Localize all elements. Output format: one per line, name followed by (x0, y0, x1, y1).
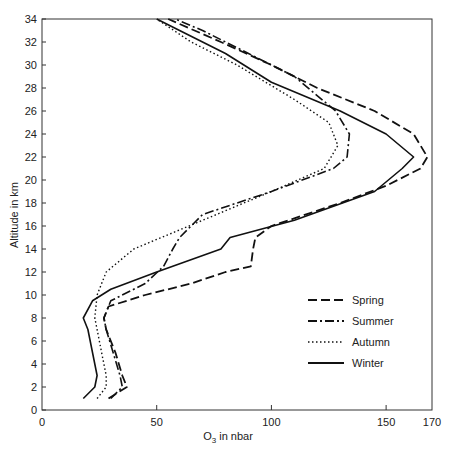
x-tick-label: 100 (262, 416, 280, 428)
x-axis-label: O3 in nbar (203, 430, 253, 445)
chart-svg: 0246810121416182022242628303234050100150… (0, 0, 449, 449)
y-tick-label: 4 (31, 358, 37, 370)
y-tick-label: 0 (31, 404, 37, 416)
legend-label-summer: Summer (352, 315, 394, 327)
y-tick-label: 14 (25, 243, 37, 255)
x-tick-label: 50 (151, 416, 163, 428)
y-tick-label: 30 (25, 59, 37, 71)
y-tick-label: 2 (31, 381, 37, 393)
y-tick-label: 18 (25, 197, 37, 209)
y-tick-label: 16 (25, 220, 37, 232)
series-line-autumn (95, 19, 338, 399)
y-tick-label: 20 (25, 174, 37, 186)
y-axis-label: Altitude in km (8, 182, 20, 248)
y-tick-label: 8 (31, 312, 37, 324)
y-tick-label: 34 (25, 13, 37, 25)
y-tick-label: 12 (25, 266, 37, 278)
legend-label-autumn: Autumn (352, 336, 390, 348)
legend-label-spring: Spring (352, 294, 384, 306)
ozone-altitude-chart: 0246810121416182022242628303234050100150… (0, 0, 449, 449)
y-tick-label: 26 (25, 105, 37, 117)
legend-label-winter: Winter (352, 357, 384, 369)
y-tick-label: 28 (25, 82, 37, 94)
y-tick-label: 22 (25, 151, 37, 163)
x-tick-label: 150 (377, 416, 395, 428)
y-tick-label: 6 (31, 335, 37, 347)
y-tick-label: 10 (25, 289, 37, 301)
plot-frame (42, 19, 432, 410)
x-tick-label: 0 (39, 416, 45, 428)
y-tick-label: 32 (25, 36, 37, 48)
legend: SpringSummerAutumnWinter (308, 294, 394, 369)
x-tick-label: 170 (423, 416, 441, 428)
y-tick-label: 24 (25, 128, 37, 140)
